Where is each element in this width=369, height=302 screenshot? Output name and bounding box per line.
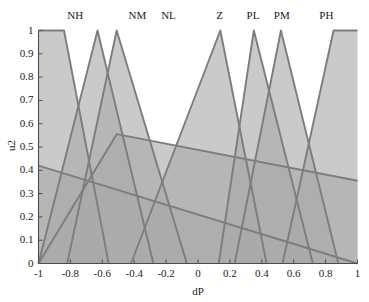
x-axis-title: dP (158, 286, 238, 297)
y-tick-label: 0.7 (20, 94, 34, 105)
y-tick-label: 0.4 (20, 164, 34, 175)
set-label-nh: NH (55, 10, 95, 21)
set-label-pm: PM (262, 10, 302, 21)
set-label-nl: NL (148, 10, 188, 21)
y-tick-label: 0.6 (20, 118, 34, 129)
x-tick-label: 1 (338, 268, 369, 279)
y-tick-label: 0.5 (20, 141, 34, 152)
y-tick-label: 0.8 (20, 71, 34, 82)
y-tick-label: 0.9 (20, 48, 34, 59)
plot-svg (0, 0, 369, 302)
fuzzy-membership-chart: 00.10.20.30.40.50.60.70.80.91-1-0.8-0.6-… (0, 0, 369, 302)
y-tick-label: 1 (28, 25, 34, 36)
y-tick-label: 0.3 (20, 188, 34, 199)
y-axis-title: u2 (6, 126, 17, 166)
set-label-ph: PH (306, 10, 346, 21)
y-tick-label: 0.1 (20, 234, 34, 245)
y-tick-label: 0.2 (20, 211, 34, 222)
